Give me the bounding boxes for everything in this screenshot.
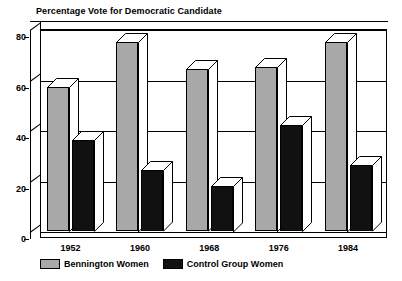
x-axis-tick-label: 1968 [199,243,219,253]
bar [141,170,163,231]
y-axis-tick-mark [24,138,29,139]
y-axis-tick-mark [24,239,29,240]
y-axis: 020406080 [0,21,30,241]
legend-entry[interactable]: Control Group Women [163,259,283,269]
x-axis-tick-label: 1976 [269,243,289,253]
bar-3d-faces [350,156,383,233]
bar [350,165,372,231]
bar [280,125,302,231]
legend-entry[interactable]: Bennington Women [40,259,149,269]
y-axis-tick-mark [24,88,29,89]
legend-swatch-black [163,259,183,269]
x-axis-tick-label: 1984 [338,243,358,253]
bar-chart: Percentage Vote for Democratic Candidate… [0,0,402,281]
bar [255,67,277,231]
bar-3d-faces [280,116,313,233]
y-axis-tick-mark [24,37,29,38]
bar [211,186,233,231]
chart-title: Percentage Vote for Democratic Candidate [36,6,222,16]
legend-swatch-gray [40,259,60,269]
legend-label: Control Group Women [187,259,283,269]
legend-label: Bennington Women [64,259,149,269]
bar-3d-faces [211,177,244,233]
y-axis-tick-mark [24,189,29,190]
bar-3d-faces [141,161,174,233]
bars-group [40,29,387,231]
bar [116,42,138,231]
bar-3d-faces [72,131,105,233]
bar [186,69,208,231]
bar [72,140,94,231]
chart-legend: Bennington WomenControl Group Women [40,259,291,269]
x-axis-tick-label: 1952 [60,243,80,253]
bar [47,87,69,231]
x-axis-tick-label: 1960 [130,243,150,253]
x-axis: 19521960196819761984 [30,243,388,257]
bar [325,42,347,231]
